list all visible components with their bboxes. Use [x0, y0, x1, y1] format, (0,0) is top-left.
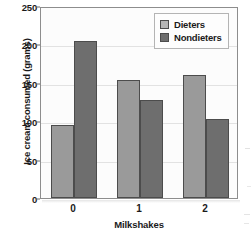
x-axis-title: Milkshakes: [40, 219, 238, 230]
x-axis-tick-label: 2: [185, 203, 225, 214]
x-axis-tick-label: 0: [53, 203, 93, 214]
chart-legend: Dieters Nondieters: [154, 13, 229, 49]
scan-artifact: [247, 186, 251, 187]
bar-nondieters-2: [206, 119, 229, 198]
y-axis-tick-label: 150: [5, 78, 37, 89]
bar-chart-figure: Ice cream consumed (grams) 0501001502002…: [0, 0, 252, 237]
scan-artifact: [244, 214, 250, 215]
legend-swatch-dieters: [160, 20, 169, 29]
y-axis-tick-label: 0: [5, 194, 37, 205]
scan-artifact: [244, 223, 249, 224]
bar-nondieters-0: [74, 41, 97, 198]
scan-artifact: [245, 148, 250, 149]
bar-dieters-2: [183, 75, 206, 198]
x-axis-tick-label: 1: [119, 203, 159, 214]
legend-item-nondieters: Nondieters: [160, 31, 222, 44]
plot-area: Dieters Nondieters: [40, 7, 238, 199]
bar-dieters-1: [117, 80, 140, 198]
bar-nondieters-1: [140, 100, 163, 198]
scan-shadow: [42, 200, 240, 203]
legend-label-nondieters: Nondieters: [174, 32, 222, 43]
legend-swatch-nondieters: [160, 33, 169, 42]
y-axis-tick-label: 100: [5, 117, 37, 128]
bar-dieters-0: [51, 125, 74, 198]
legend-item-dieters: Dieters: [160, 18, 222, 31]
legend-label-dieters: Dieters: [174, 19, 205, 30]
y-axis-tick-label: 200: [5, 40, 37, 51]
y-axis-tick-label: 250: [5, 2, 37, 13]
y-axis-tick-label: 50: [5, 155, 37, 166]
